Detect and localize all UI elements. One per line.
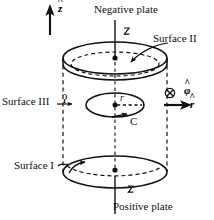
z-hat-label: ^z <box>58 2 62 14</box>
z-hat-vector <box>45 4 54 35</box>
positive-plate-label: Positive plate <box>113 201 173 212</box>
surface-i-label: Surface I <box>14 160 54 171</box>
r-hat-caret: ^ <box>189 91 195 102</box>
phi-hat-caret: ^ <box>184 77 190 88</box>
negative-plate-label: Negative plate <box>94 4 158 15</box>
surface-iii-squiggle: ʔ <box>62 92 67 107</box>
radius-label: r <box>120 93 124 103</box>
surface-ii-label: Surface II <box>153 33 197 44</box>
r-hat-label: ^r <box>190 98 194 110</box>
surface-iii-label: Surface III <box>2 96 49 107</box>
r-hat-vector <box>164 100 192 110</box>
z-hat-caret: ^ <box>57 0 63 6</box>
phi-hat-into-page <box>165 88 174 97</box>
contour-label: C <box>130 116 137 127</box>
capacitor-diagram: Negative plate Surface II Surface III Su… <box>0 0 214 220</box>
